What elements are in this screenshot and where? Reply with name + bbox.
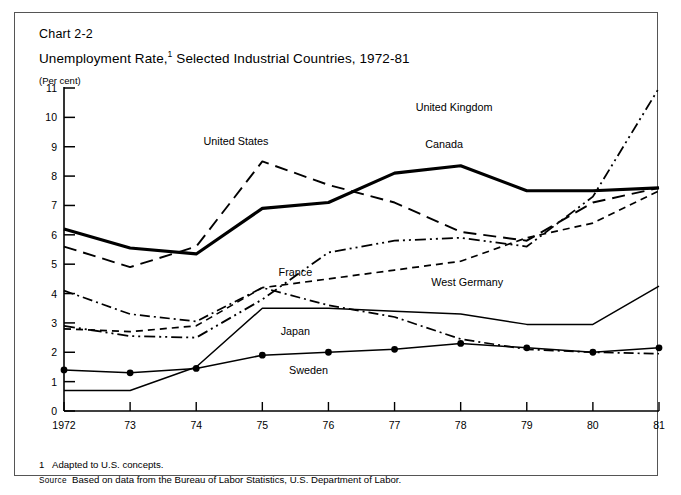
series-line-canada — [64, 166, 659, 254]
x-axis-tick-label: 77 — [389, 419, 401, 431]
x-axis-tick-label: 78 — [455, 419, 467, 431]
series-label-france: France — [279, 266, 313, 278]
x-axis-tick-label: 81 — [653, 419, 665, 431]
line-chart-plot: 012345678910111972737475767778798081Cana… — [0, 0, 681, 495]
series-line-france — [64, 191, 659, 332]
x-axis-tick-label: 80 — [587, 419, 599, 431]
y-axis-tick-label: 0 — [51, 405, 57, 417]
y-axis-tick-label: 1 — [51, 376, 57, 388]
series-marker-japan — [127, 369, 134, 376]
series-line-sweden — [64, 288, 659, 354]
y-axis-tick-label: 3 — [51, 317, 57, 329]
y-axis-tick-label: 5 — [51, 258, 57, 270]
x-axis-tick-label: 75 — [256, 419, 268, 431]
y-axis-tick-label: 10 — [45, 111, 57, 123]
y-axis-tick-label: 4 — [51, 288, 57, 300]
series-marker-japan — [457, 340, 464, 347]
series-marker-japan — [259, 352, 266, 359]
series-label-west-germany: West Germany — [431, 276, 503, 288]
y-axis-tick-label: 8 — [51, 170, 57, 182]
y-axis-tick-label: 9 — [51, 141, 57, 153]
series-label-sweden: Sweden — [289, 364, 328, 376]
series-marker-japan — [656, 344, 663, 351]
y-axis-tick-label: 6 — [51, 229, 57, 241]
series-line-west-germany — [64, 286, 659, 390]
series-marker-japan — [61, 366, 68, 373]
y-axis-tick-label: 2 — [51, 346, 57, 358]
series-label-japan: Japan — [281, 325, 310, 337]
x-axis-tick-label: 76 — [323, 419, 335, 431]
x-axis-tick-label: 79 — [521, 419, 533, 431]
series-label-united-kingdom: United Kingdom — [416, 101, 493, 113]
series-label-canada: Canada — [425, 138, 463, 150]
series-line-united-kingdom — [64, 88, 659, 338]
series-marker-japan — [193, 365, 200, 372]
series-label-united-states: United States — [203, 135, 268, 147]
series-marker-japan — [391, 346, 398, 353]
series-line-japan — [64, 343, 659, 372]
x-axis-tick-label: 73 — [124, 419, 136, 431]
x-axis-tick-label: 74 — [190, 419, 202, 431]
series-marker-japan — [325, 349, 332, 356]
x-axis-tick-label: 1972 — [52, 419, 76, 431]
y-axis-tick-label: 11 — [46, 82, 57, 94]
y-axis-tick-label: 7 — [51, 199, 57, 211]
